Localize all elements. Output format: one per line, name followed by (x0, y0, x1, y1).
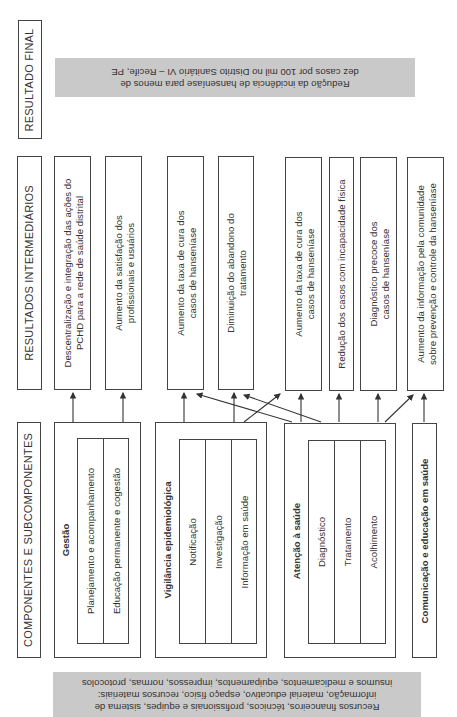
arrows-layer (0, 0, 457, 717)
arrow-icon (385, 395, 413, 422)
arrow-icon (244, 395, 321, 422)
arrow-icon (197, 394, 292, 422)
arrow-icon (244, 394, 280, 422)
